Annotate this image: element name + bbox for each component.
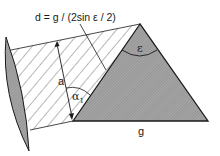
a-label: a	[58, 76, 64, 87]
prism-diagram	[0, 0, 220, 156]
g-label: g	[138, 126, 144, 137]
formula-label: d = g / (2sin ε / 2)	[35, 12, 116, 23]
epsilon-label: ε	[137, 43, 143, 54]
alpha-label: α1	[72, 91, 84, 105]
